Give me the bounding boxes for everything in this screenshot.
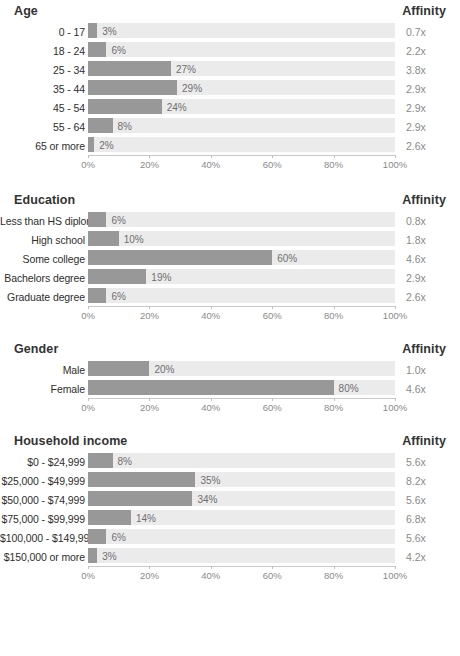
axis-tick bbox=[334, 566, 335, 569]
table-row[interactable]: 18 - 246%2.2x bbox=[0, 41, 460, 60]
table-row[interactable]: 25 - 3427%3.8x bbox=[0, 60, 460, 79]
table-row[interactable]: 35 - 4429%2.9x bbox=[0, 79, 460, 98]
bar-fill[interactable] bbox=[88, 510, 131, 525]
bar-fill[interactable] bbox=[88, 212, 106, 227]
affinity-value: 0.8x bbox=[395, 215, 460, 227]
bar-track-wrapper: 35% bbox=[88, 471, 395, 490]
table-row[interactable]: Graduate degree6%2.6x bbox=[0, 287, 460, 306]
axis-tick-label: 100% bbox=[383, 402, 407, 413]
table-row[interactable]: $150,000 or more3%4.2x bbox=[0, 547, 460, 566]
bar-value-label: 14% bbox=[131, 509, 156, 528]
axis-tick bbox=[395, 155, 396, 158]
bar-track-wrapper: 8% bbox=[88, 452, 395, 471]
bar-track-wrapper: 60% bbox=[88, 249, 395, 268]
bar-track-wrapper: 3% bbox=[88, 547, 395, 566]
axis-line bbox=[88, 398, 395, 399]
bar-value-label: 19% bbox=[146, 268, 171, 287]
axis-tick bbox=[149, 398, 150, 401]
category-label: 35 - 44 bbox=[0, 83, 88, 95]
bar-track-wrapper: 80% bbox=[88, 379, 395, 398]
axis-tick bbox=[272, 566, 273, 569]
bar-fill[interactable] bbox=[88, 231, 119, 246]
axis-tick bbox=[211, 155, 212, 158]
bar-fill[interactable] bbox=[88, 491, 192, 506]
table-row[interactable]: $75,000 - $99,99914%6.8x bbox=[0, 509, 460, 528]
table-row[interactable]: High school10%1.8x bbox=[0, 230, 460, 249]
table-row[interactable]: 0 - 173%0.7x bbox=[0, 22, 460, 41]
bar-fill[interactable] bbox=[88, 99, 162, 114]
bar-value-label: 24% bbox=[162, 98, 187, 117]
table-row[interactable]: $0 - $24,9998%5.6x bbox=[0, 452, 460, 471]
axis-tick bbox=[149, 155, 150, 158]
bar-value-label: 8% bbox=[113, 117, 132, 136]
axis-tick bbox=[211, 306, 212, 309]
bar-fill[interactable] bbox=[88, 288, 106, 303]
bar-fill[interactable] bbox=[88, 361, 149, 376]
table-row[interactable]: $25,000 - $49,99935%8.2x bbox=[0, 471, 460, 490]
bar-rows: 0 - 173%0.7x18 - 246%2.2x25 - 3427%3.8x3… bbox=[0, 22, 460, 155]
bar-track-wrapper: 6% bbox=[88, 287, 395, 306]
category-label: Bachelors degree bbox=[0, 272, 88, 284]
affinity-value: 2.9x bbox=[395, 121, 460, 133]
bar-rows: $0 - $24,9998%5.6x$25,000 - $49,99935%8.… bbox=[0, 452, 460, 566]
axis-tick bbox=[88, 566, 89, 569]
table-row[interactable]: Female80%4.6x bbox=[0, 379, 460, 398]
table-row[interactable]: 45 - 5424%2.9x bbox=[0, 98, 460, 117]
affinity-value: 2.6x bbox=[395, 140, 460, 152]
bar-value-label: 27% bbox=[171, 60, 196, 79]
chart-panel: AgeAffinity0 - 173%0.7x18 - 246%2.2x25 -… bbox=[0, 0, 460, 175]
axis-line bbox=[88, 155, 395, 156]
table-row[interactable]: $100,000 - $149,9996%5.6x bbox=[0, 528, 460, 547]
axis-tick bbox=[395, 398, 396, 401]
bar-fill[interactable] bbox=[88, 61, 171, 76]
affinity-value: 4.2x bbox=[395, 551, 460, 563]
bar-track bbox=[88, 118, 395, 133]
category-label: 25 - 34 bbox=[0, 64, 88, 76]
table-row[interactable]: Male20%1.0x bbox=[0, 360, 460, 379]
bar-fill[interactable] bbox=[88, 118, 113, 133]
bar-fill[interactable] bbox=[88, 80, 177, 95]
affinity-value: 5.6x bbox=[395, 456, 460, 468]
bar-track-wrapper: 29% bbox=[88, 79, 395, 98]
bar-fill[interactable] bbox=[88, 548, 97, 563]
table-row[interactable]: 65 or more2%2.6x bbox=[0, 136, 460, 155]
category-label: $150,000 or more bbox=[0, 551, 88, 563]
bar-fill[interactable] bbox=[88, 453, 113, 468]
bar-fill[interactable] bbox=[88, 472, 195, 487]
bar-value-label: 6% bbox=[106, 41, 125, 60]
affinity-value: 2.9x bbox=[395, 83, 460, 95]
axis-tick bbox=[149, 566, 150, 569]
category-label: $25,000 - $49,999 bbox=[0, 475, 88, 487]
bar-fill[interactable] bbox=[88, 42, 106, 57]
table-row[interactable]: 55 - 648%2.9x bbox=[0, 117, 460, 136]
axis-tick-label: 60% bbox=[263, 570, 282, 581]
bar-value-label: 10% bbox=[119, 230, 144, 249]
bar-fill[interactable] bbox=[88, 23, 97, 38]
axis-tick bbox=[395, 306, 396, 309]
category-label: 45 - 54 bbox=[0, 102, 88, 114]
table-row[interactable]: Some college60%4.6x bbox=[0, 249, 460, 268]
affinity-report: AgeAffinity0 - 173%0.7x18 - 246%2.2x25 -… bbox=[0, 0, 460, 656]
affinity-value: 8.2x bbox=[395, 475, 460, 487]
category-label: 0 - 17 bbox=[0, 26, 88, 38]
category-label: Some college bbox=[0, 253, 88, 265]
category-label: Less than HS diploma bbox=[0, 215, 88, 227]
category-label: $50,000 - $74,999 bbox=[0, 494, 88, 506]
panel-header: Household incomeAffinity bbox=[0, 430, 460, 452]
bar-fill[interactable] bbox=[88, 250, 272, 265]
axis-tick bbox=[272, 306, 273, 309]
bar-value-label: 3% bbox=[97, 547, 116, 566]
table-row[interactable]: Less than HS diploma6%0.8x bbox=[0, 211, 460, 230]
axis-tick-label: 100% bbox=[383, 570, 407, 581]
axis-tick-label: 0% bbox=[81, 310, 95, 321]
axis-tick-label: 0% bbox=[81, 159, 95, 170]
bar-fill[interactable] bbox=[88, 380, 334, 395]
table-row[interactable]: Bachelors degree19%2.9x bbox=[0, 268, 460, 287]
bar-track bbox=[88, 453, 395, 468]
bar-fill[interactable] bbox=[88, 269, 146, 284]
x-axis: 0%20%40%60%80%100% bbox=[88, 398, 395, 418]
table-row[interactable]: $50,000 - $74,99934%5.6x bbox=[0, 490, 460, 509]
x-axis: 0%20%40%60%80%100% bbox=[88, 306, 395, 326]
bar-track bbox=[88, 42, 395, 57]
bar-fill[interactable] bbox=[88, 529, 106, 544]
